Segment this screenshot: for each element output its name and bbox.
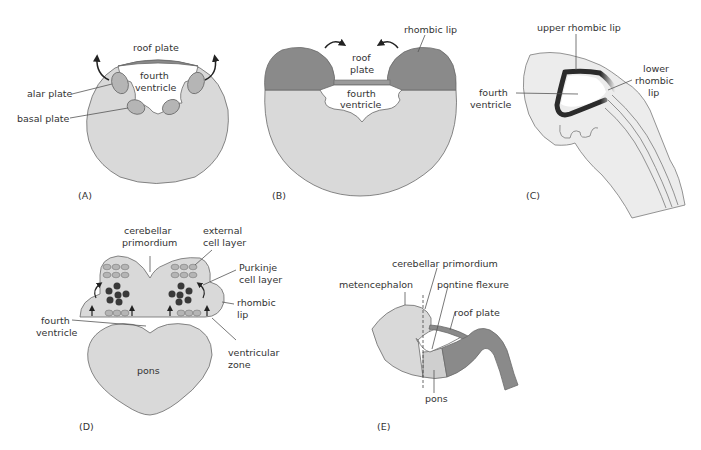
label-ventricular-zone-2: zone bbox=[228, 359, 251, 370]
label-upper-rhombic-lip: upper rhombic lip bbox=[537, 22, 621, 33]
label-cerebellar-primordium-1: cerebellar bbox=[124, 225, 172, 236]
label-pons: pons bbox=[425, 393, 448, 404]
panel-tag-b: (B) bbox=[272, 190, 286, 201]
label-metencephalon: metencephalon bbox=[339, 279, 413, 290]
panel-e: cerebellar primordium metencephalon pont… bbox=[339, 258, 518, 432]
rhombic-lip-left bbox=[265, 47, 335, 90]
label-pontine-flexure: pontine flexure bbox=[437, 279, 509, 290]
label-fourth-ventricle-1: fourth bbox=[140, 70, 169, 81]
label-fourth-ventricle-1: fourth bbox=[347, 88, 376, 99]
label-roof-plate: roof plate bbox=[133, 42, 179, 53]
leader-fourth-ventricle bbox=[72, 320, 146, 326]
rhombic-lip-right bbox=[387, 47, 456, 90]
label-fourth-ventricle-1: fourth bbox=[41, 315, 70, 326]
panel-a: roof plate fourth ventricle alar plate b… bbox=[17, 42, 228, 201]
label-basal-plate: basal plate bbox=[17, 113, 69, 124]
label-lower-rhombic-lip-2: rhombic bbox=[635, 75, 674, 86]
label-rhombic-lip: rhombic lip bbox=[404, 24, 457, 35]
label-alar-plate: alar plate bbox=[27, 88, 72, 99]
panel-tag-c: (C) bbox=[526, 190, 540, 201]
panel-tag-a: (A) bbox=[78, 190, 92, 201]
label-fourth-ventricle-2: ventricle bbox=[340, 99, 382, 110]
label-cerebellar-primordium-2: primordium bbox=[122, 237, 177, 248]
panel-c: upper rhombic lip lower rhombic lip four… bbox=[470, 22, 685, 218]
cerebellar-primordium-d bbox=[80, 256, 224, 317]
label-fourth-ventricle-2: ventricle bbox=[135, 82, 177, 93]
figure-canvas: roof plate fourth ventricle alar plate b… bbox=[0, 0, 701, 450]
label-external-cell-layer-1: external bbox=[203, 225, 242, 236]
label-pons: pons bbox=[137, 365, 160, 376]
label-roof-plate-1: roof bbox=[352, 52, 371, 63]
label-lower-rhombic-lip-3: lip bbox=[648, 87, 659, 98]
label-purkinje-cell-layer-2: cell layer bbox=[239, 274, 282, 285]
panel-tag-d: (D) bbox=[79, 421, 94, 432]
leader-cerebellar-primordium bbox=[425, 268, 437, 309]
label-fourth-ventricle-2: ventricle bbox=[36, 327, 78, 338]
roof-plate-b bbox=[334, 80, 390, 85]
arrow-left-icon bbox=[325, 42, 343, 48]
label-rhombic-lip-1: rhombic bbox=[237, 297, 276, 308]
label-roof-plate: roof plate bbox=[454, 307, 500, 318]
leader-ventricular-zone bbox=[212, 318, 236, 340]
label-roof-plate-2: plate bbox=[350, 64, 374, 75]
arrow-right-icon bbox=[380, 42, 398, 48]
label-fourth-ventricle-2: ventricle bbox=[470, 99, 512, 110]
panel-d: cerebellar primordium external cell laye… bbox=[36, 225, 282, 432]
label-rhombic-lip-2: lip bbox=[237, 309, 248, 320]
label-fourth-ventricle-1: fourth bbox=[479, 87, 508, 98]
panel-tag-e: (E) bbox=[377, 421, 390, 432]
label-purkinje-cell-layer-1: Purkinje bbox=[239, 262, 277, 273]
label-ventricular-zone-1: ventricular bbox=[228, 347, 279, 358]
panel-b: rhombic lip roof plate fourth ventricle … bbox=[265, 24, 457, 201]
label-external-cell-layer-2: cell layer bbox=[203, 237, 246, 248]
label-cerebellar-primordium: cerebellar primordium bbox=[392, 258, 498, 269]
label-lower-rhombic-lip-1: lower bbox=[643, 63, 669, 74]
